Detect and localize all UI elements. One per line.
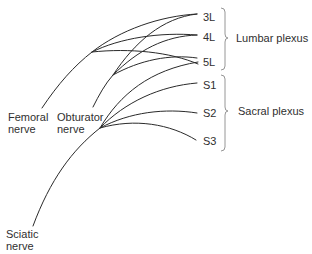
plexus-diagram: 3L 4L 5L S1 S2 S3 Lumbar plexus Sacral p…: [0, 0, 312, 254]
sciatic-branch-S3: [100, 123, 196, 140]
root-label-S3: S3: [203, 135, 216, 147]
root-label-5L: 5L: [203, 56, 215, 68]
root-label-S1: S1: [203, 79, 216, 91]
obturator-nerve: [93, 14, 197, 107]
sciatic-branch-S2: [100, 111, 197, 128]
lumbar-brace: [221, 8, 228, 70]
root-label-4L: 4L: [203, 31, 215, 43]
sacral-brace: [221, 75, 228, 151]
sciatic-label-line2: nerve: [6, 240, 34, 252]
obturator-trunk: [93, 75, 113, 107]
sciatic-trunk: [33, 128, 100, 226]
femoral-trunk: [42, 52, 92, 108]
lumbar-plexus-label: Lumbar plexus: [236, 32, 309, 44]
sacral-plexus-label: Sacral plexus: [238, 105, 305, 117]
root-label-3L: 3L: [203, 11, 215, 23]
femoral-branch-3L: [92, 14, 197, 52]
obturator-label-line1: Obturator: [57, 111, 104, 123]
femoral-label-line2: nerve: [8, 123, 36, 135]
obturator-label-line2: nerve: [57, 123, 85, 135]
femoral-nerve: [42, 14, 198, 108]
femoral-label-line1: Femoral: [8, 111, 48, 123]
root-label-S2: S2: [203, 107, 216, 119]
sciatic-label-line1: Sciatic: [6, 228, 39, 240]
